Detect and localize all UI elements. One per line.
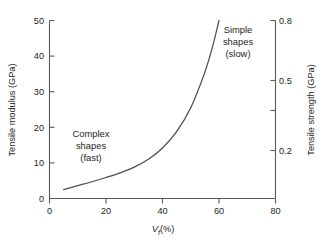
right-axis-tick-labels: 0.8 0.5 0.2: [279, 16, 292, 156]
x-tick-label-60: 60: [214, 206, 224, 216]
chart-figure: 0 10 20 30 40 50 0.8 0.5 0.2 0: [0, 0, 328, 242]
x-axis-title: Vf(%): [152, 223, 175, 237]
left-tick-label-0: 0: [39, 194, 44, 204]
tensile-modulus-vs-fibre-volume-fraction-chart: 0 10 20 30 40 50 0.8 0.5 0.2 0: [0, 0, 328, 242]
left-tick-label-30: 30: [34, 87, 44, 97]
annotation-simple-shapes: Simple shapes (slow): [223, 24, 254, 59]
left-tick-label-50: 50: [34, 16, 44, 26]
left-axis-ticks: [50, 21, 55, 199]
x-tick-label-40: 40: [157, 206, 167, 216]
right-tick-label-0-2: 0.2: [279, 146, 292, 156]
right-tick-label-0-8: 0.8: [279, 16, 292, 26]
annotation-complex-shapes-line-2: shapes: [76, 140, 107, 151]
left-tick-label-20: 20: [34, 123, 44, 133]
annotation-complex-shapes-line-1: Complex: [73, 128, 110, 139]
x-axis-tick-labels: 0 20 40 60 80: [47, 206, 281, 216]
left-tick-label-40: 40: [34, 51, 44, 61]
left-tick-label-10: 10: [34, 158, 44, 168]
data-curve-tensile-modulus: [64, 21, 219, 190]
left-axis-title: Tensile modulus (GPa): [7, 64, 17, 157]
right-axis-title: Tensile strength (GPa): [306, 64, 316, 155]
annotation-complex-shapes-line-3: (fast): [80, 152, 101, 163]
annotation-simple-shapes-line-3: (slow): [226, 48, 251, 59]
right-tick-label-0-5: 0.5: [279, 76, 292, 86]
left-axis-tick-labels: 0 10 20 30 40 50: [34, 16, 44, 204]
x-tick-label-80: 80: [270, 206, 280, 216]
annotation-simple-shapes-line-2: shapes: [223, 36, 254, 47]
annotation-complex-shapes: Complex shapes (fast): [73, 128, 110, 163]
x-tick-label-20: 20: [101, 206, 111, 216]
annotation-simple-shapes-line-1: Simple: [224, 24, 253, 35]
x-axis-title-unit: (%): [160, 224, 174, 234]
right-axis-ticks: [271, 21, 276, 151]
x-tick-label-0: 0: [47, 206, 52, 216]
x-axis-ticks: [50, 199, 276, 204]
